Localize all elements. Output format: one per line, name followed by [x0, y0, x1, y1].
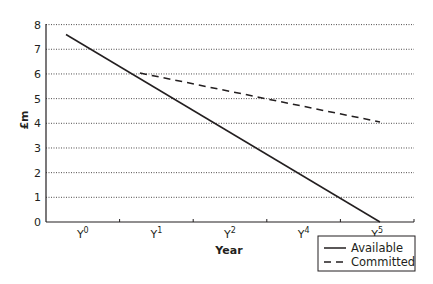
- legend-committed-label: Committed: [351, 255, 415, 269]
- x-tick-label: Y4: [297, 226, 310, 241]
- y-axis-title: £m: [18, 110, 31, 129]
- series-available-line: [66, 35, 380, 223]
- x-tick-label: Y2: [223, 226, 236, 241]
- y-tick-label: 3: [34, 142, 41, 155]
- series-committed-line: [140, 73, 380, 122]
- x-tick-label: Y0: [76, 226, 89, 241]
- y-tick-label: 4: [34, 117, 41, 130]
- x-axis-title: Year: [214, 244, 243, 257]
- gridlines: [46, 25, 414, 198]
- legend-available-label: Available: [351, 241, 403, 255]
- legend: Available Committed: [318, 236, 415, 271]
- line-chart: 012345678 Y0Y1Y2Y4Y5 £m Year Available C…: [0, 0, 433, 284]
- y-tick-label: 8: [34, 19, 41, 32]
- y-tick-label: 7: [34, 43, 41, 56]
- y-tick-label: 1: [34, 191, 41, 204]
- y-tick-labels: 012345678: [34, 19, 41, 229]
- y-tick-label: 2: [34, 167, 41, 180]
- x-tick-label: Y1: [149, 226, 162, 241]
- y-tick-label: 6: [34, 68, 41, 81]
- y-tick-label: 5: [34, 93, 41, 106]
- y-tick-label: 0: [34, 216, 41, 229]
